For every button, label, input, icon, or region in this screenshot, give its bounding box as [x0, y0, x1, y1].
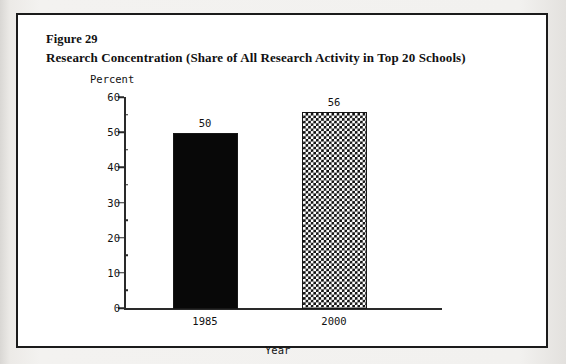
y-tick-label: 10 — [107, 267, 120, 279]
bar-chart-plot: Percent Year 0102030405060 5056 19852000 — [18, 15, 550, 350]
y-tick-label: 20 — [107, 232, 120, 244]
bars-layer: 5056 — [125, 97, 443, 309]
y-tick-label: 40 — [107, 161, 120, 173]
bar-value-label-1985: 50 — [199, 117, 212, 129]
bar-1985 — [173, 133, 238, 309]
bar-value-label-2000: 56 — [328, 96, 341, 108]
y-axis-title: Percent — [90, 73, 134, 85]
figure-frame: Figure 29 Research Concentration (Share … — [16, 13, 548, 348]
screenshot-root: Figure 29 Research Concentration (Share … — [0, 0, 566, 364]
y-tick-label: 30 — [107, 197, 120, 209]
y-tick-label: 50 — [107, 126, 120, 138]
y-tick-label: 0 — [114, 302, 120, 314]
x-category-label-2000: 2000 — [321, 315, 346, 327]
bar-2000 — [302, 112, 367, 309]
figure-inner: Figure 29 Research Concentration (Share … — [18, 15, 546, 346]
x-category-label-1985: 1985 — [192, 315, 217, 327]
x-axis-title: Year — [265, 344, 290, 356]
y-tick-label: 60 — [107, 91, 120, 103]
